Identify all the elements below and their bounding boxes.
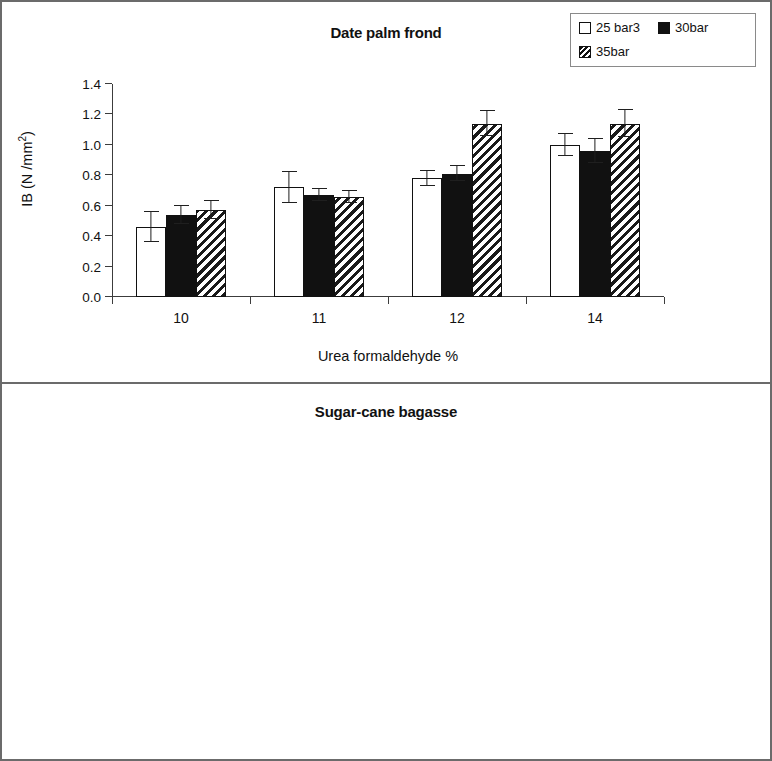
error-bar-cap-top — [174, 205, 189, 206]
bar-25-bar3[interactable] — [550, 145, 580, 297]
page-title-bottom: Sugar-cane bagasse — [2, 403, 770, 420]
bar-35bar[interactable] — [472, 124, 502, 297]
x-tick-labels-top: 10111214 — [112, 310, 664, 326]
bar-35bar[interactable] — [334, 197, 364, 297]
x-axis-tick-label: 11 — [250, 310, 388, 326]
error-bar-cap-bottom — [312, 200, 327, 201]
y-axis-tick-label: 1.2 — [82, 107, 101, 122]
x-axis-tick — [388, 297, 389, 304]
error-bar-cap-top — [312, 188, 327, 189]
error-bar-cap-top — [588, 138, 603, 139]
legend-item-35bar: 35bar — [579, 44, 629, 59]
bar-slot — [304, 84, 334, 297]
error-bar — [624, 110, 625, 137]
y-axis-title-exponent: 2 — [17, 136, 28, 142]
bar-group — [526, 84, 664, 297]
bar-slot — [550, 84, 580, 297]
y-axis-tick: 0.0 — [105, 296, 112, 297]
x-axis-title-top: Urea formaldehyde % — [112, 348, 664, 364]
bar-30bar[interactable] — [304, 195, 334, 297]
error-bar-cap-bottom — [342, 202, 357, 203]
error-bar-cap-bottom — [282, 202, 297, 203]
legend-row-1: 25 bar3 30bar — [579, 20, 747, 35]
y-axis-tick-label: 0.0 — [82, 290, 101, 305]
y-axis-tick: 1.0 — [105, 144, 112, 145]
error-bar-cap-top — [204, 200, 219, 201]
y-axis-tick: 0.2 — [105, 266, 112, 267]
legend-item-30bar: 30bar — [658, 20, 708, 35]
error-bar-cap-bottom — [204, 218, 219, 219]
error-bar-cap-top — [480, 110, 495, 111]
error-bar — [456, 166, 457, 181]
bar-25-bar3[interactable] — [412, 178, 442, 297]
bar-30bar[interactable] — [580, 151, 610, 297]
error-bar-cap-top — [342, 190, 357, 191]
y-axis-title-top: IB (N /mm2) — [17, 84, 35, 254]
bar-slot — [580, 84, 610, 297]
bar-slot — [472, 84, 502, 297]
y-axis-tick: 0.4 — [105, 235, 112, 236]
bar-slot — [610, 84, 640, 297]
y-axis-tick-label: 1.4 — [82, 77, 101, 92]
bar-slot — [136, 84, 166, 297]
bar-groups-top — [112, 84, 664, 297]
bar-slot — [334, 84, 364, 297]
error-bar-cap-bottom — [420, 185, 435, 186]
error-bar — [426, 171, 427, 186]
bar-group — [388, 84, 526, 297]
bar-group — [112, 84, 250, 297]
error-bar — [180, 206, 181, 224]
y-axis-tick: 1.2 — [105, 113, 112, 114]
bar-slot — [166, 84, 196, 297]
error-bar — [150, 212, 151, 242]
figure-frame: Date palm frond 25 bar3 30bar 35bar — [0, 0, 772, 761]
white-square-icon — [579, 22, 591, 34]
error-bar-cap-bottom — [480, 135, 495, 136]
error-bar-cap-bottom — [144, 241, 159, 242]
x-axis-tick — [250, 297, 251, 304]
legend-item-25bar3: 25 bar3 — [579, 20, 640, 35]
x-axis-tick — [526, 297, 527, 304]
y-axis-tick-label: 0.6 — [82, 198, 101, 213]
y-axis-title-text: IB (N /mm — [19, 141, 35, 206]
error-bar-cap-top — [144, 211, 159, 212]
error-bar — [594, 139, 595, 163]
bar-35bar[interactable] — [196, 210, 226, 297]
bar-slot — [196, 84, 226, 297]
chart-panel-date-palm-frond: Date palm frond 25 bar3 30bar 35bar — [2, 2, 770, 383]
legend-label-25bar3: 25 bar3 — [596, 20, 640, 35]
error-bar-cap-bottom — [588, 162, 603, 163]
chart-panel-sugar-cane-bagasse: Sugar-cane bagasse IB (N /mm2) 1.41.21.0… — [2, 383, 770, 759]
y-axis-tick: 0.6 — [105, 205, 112, 206]
x-axis-tick — [112, 297, 113, 304]
error-bar-cap-top — [450, 165, 465, 166]
bar-group — [250, 84, 388, 297]
bar-slot — [442, 84, 472, 297]
error-bar-cap-top — [420, 170, 435, 171]
plot-area-top: 1.41.21.00.80.60.40.20.0 — [112, 84, 664, 297]
y-axis-tick-label: 0.8 — [82, 168, 101, 183]
bar-slot — [412, 84, 442, 297]
bar-30bar[interactable] — [442, 174, 472, 297]
bar-25-bar3[interactable] — [274, 187, 304, 297]
bar-30bar[interactable] — [166, 215, 196, 297]
error-bar-cap-bottom — [558, 155, 573, 156]
legend-label-35bar: 35bar — [596, 44, 629, 59]
x-axis-tick-label: 12 — [388, 310, 526, 326]
bar-35bar[interactable] — [610, 124, 640, 297]
x-axis-tick-label: 10 — [112, 310, 250, 326]
legend: 25 bar3 30bar 35bar — [570, 13, 756, 67]
y-axis-tick: 0.8 — [105, 174, 112, 175]
legend-label-30bar: 30bar — [675, 20, 708, 35]
error-bar — [210, 201, 211, 219]
y-axis-tick-label: 0.4 — [82, 229, 101, 244]
error-bar — [486, 111, 487, 135]
hatched-square-icon — [579, 46, 591, 58]
error-bar-cap-top — [618, 109, 633, 110]
error-bar-cap-top — [558, 133, 573, 134]
error-bar-cap-bottom — [174, 223, 189, 224]
black-square-icon — [658, 22, 670, 34]
error-bar-cap-top — [282, 171, 297, 172]
legend-row-2: 35bar — [579, 44, 747, 59]
x-axis-tick — [664, 297, 665, 304]
